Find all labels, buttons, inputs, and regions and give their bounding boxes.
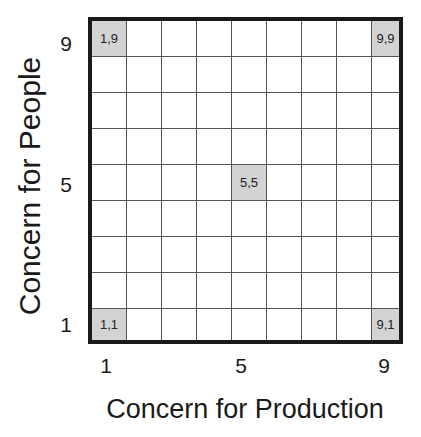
cell-9-1: 9,1 xyxy=(372,309,399,340)
gridline xyxy=(92,308,399,309)
gridline xyxy=(92,92,399,93)
cell-5-5: 5,5 xyxy=(232,165,266,200)
gridline xyxy=(196,21,197,340)
y-axis-label: Concern for People xyxy=(13,57,47,316)
cell-1-1: 1,1 xyxy=(92,309,126,340)
x-axis-label: Concern for Production xyxy=(106,394,384,425)
gridline xyxy=(92,56,399,57)
gridline xyxy=(371,21,372,340)
gridline xyxy=(92,200,399,201)
cell-9-9: 9,9 xyxy=(372,21,399,56)
y-tick-5: 5 xyxy=(57,173,75,197)
gridline xyxy=(126,21,127,340)
gridline xyxy=(301,21,302,340)
gridline xyxy=(92,236,399,237)
x-tick-9: 9 xyxy=(374,354,394,378)
gridline xyxy=(92,272,399,273)
y-tick-9: 9 xyxy=(57,32,75,56)
cell-1-9: 1,9 xyxy=(92,21,126,56)
gridline xyxy=(161,21,162,340)
x-tick-1: 1 xyxy=(96,354,116,378)
y-tick-1: 1 xyxy=(57,313,75,337)
gridline xyxy=(266,21,267,340)
gridline xyxy=(336,21,337,340)
managerial-grid: 1,9 9,9 5,5 1,1 9,1 xyxy=(88,17,403,344)
x-tick-5: 5 xyxy=(231,354,251,378)
gridline xyxy=(92,128,399,129)
